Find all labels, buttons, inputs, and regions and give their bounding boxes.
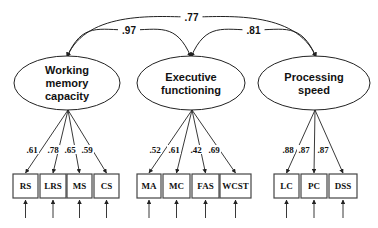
- loading-fas: .42: [189, 110, 206, 173]
- latent-label: memory: [46, 77, 90, 89]
- indicator-boxes: RSLRSMSCSMAMCFASWCSTLCPCDSS: [13, 174, 357, 218]
- loading-lrs: .78: [46, 110, 68, 173]
- indicator-label: LRS: [44, 181, 62, 191]
- indicator-ms: MS: [67, 174, 92, 218]
- indicator-mc: MC: [163, 174, 190, 218]
- loading-value: .59: [81, 145, 93, 155]
- loading-value: .69: [208, 145, 220, 155]
- indicator-wcst: WCST: [220, 174, 251, 218]
- indicator-dss: DSS: [329, 174, 357, 218]
- correlation-wmc-ef: .97: [67, 23, 191, 57]
- loading-arrow: [26, 110, 69, 173]
- cfa-diagram: .77.97.81 .61.78.65.59.52.61.42.69.88.87…: [0, 0, 378, 228]
- latent-label: Executive: [165, 71, 216, 83]
- loading-value: .88: [282, 145, 294, 155]
- loading-value: .61: [26, 145, 38, 155]
- latent-label: Processing: [284, 71, 343, 83]
- loading-value: .61: [168, 145, 180, 155]
- indicator-fas: FAS: [192, 174, 219, 218]
- indicator-rs: RS: [13, 174, 38, 218]
- latent-label: capacity: [45, 90, 90, 102]
- loading-arrow: [314, 110, 315, 173]
- loading-paths: .61.78.65.59.52.61.42.69.88.87.87: [25, 110, 343, 173]
- indicator-label: RS: [20, 181, 32, 191]
- indicator-label: WCST: [222, 181, 249, 191]
- latent-factors: WorkingmemorycapacityExecutivefunctionin…: [14, 56, 370, 110]
- loading-pc: .87: [297, 110, 315, 173]
- loading-arrow: [177, 110, 193, 173]
- correlation-value: .81: [247, 25, 261, 36]
- indicator-pc: PC: [301, 174, 327, 218]
- indicator-lrs: LRS: [40, 174, 66, 218]
- loading-value: .87: [298, 145, 310, 155]
- correlation-value: .77: [185, 12, 199, 23]
- indicator-label: LC: [280, 181, 293, 191]
- latent-label: Working: [45, 64, 89, 76]
- correlation-wmc-ps: .77: [67, 10, 316, 57]
- latent-label: functioning: [161, 84, 221, 96]
- latent-wmc: Workingmemorycapacity: [14, 56, 120, 110]
- indicator-label: DSS: [335, 181, 352, 191]
- indicator-label: MA: [142, 181, 157, 191]
- indicator-label: PC: [308, 181, 320, 191]
- loading-arrow: [53, 110, 68, 173]
- loading-value: .65: [64, 145, 76, 155]
- loading-value: .42: [190, 145, 202, 155]
- loading-dss: .87: [315, 110, 343, 173]
- loading-rs: .61: [25, 110, 68, 173]
- loading-value: .87: [317, 145, 329, 155]
- indicator-label: MC: [169, 181, 184, 191]
- indicator-label: MS: [73, 181, 87, 191]
- indicator-cs: CS: [94, 174, 119, 218]
- indicator-lc: LC: [274, 174, 299, 218]
- loading-arrow: [315, 110, 343, 173]
- correlation-ef-ps: .81: [191, 23, 316, 57]
- correlation-value: .97: [122, 25, 136, 36]
- loading-value: .78: [47, 145, 59, 155]
- loading-ma: .52: [148, 110, 192, 173]
- loading-value: .52: [149, 145, 161, 155]
- indicator-ma: MA: [137, 174, 161, 218]
- latent-label: speed: [298, 84, 330, 96]
- loading-lc: .88: [281, 110, 315, 173]
- latent-ef: Executivefunctioning: [137, 56, 245, 110]
- correlation-arcs: .77.97.81: [67, 10, 316, 57]
- latent-ps: Processingspeed: [258, 56, 370, 110]
- indicator-label: CS: [101, 181, 113, 191]
- indicator-label: FAS: [197, 181, 213, 191]
- loading-arrow: [149, 110, 192, 173]
- loading-arrow: [287, 110, 316, 173]
